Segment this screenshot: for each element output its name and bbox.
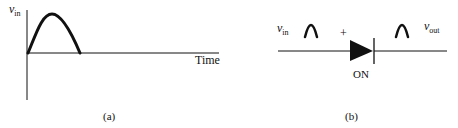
caption-a: (a): [103, 110, 115, 122]
diode-state-label: ON: [353, 68, 369, 80]
input-label-sub: in: [282, 28, 288, 37]
diode-triangle-icon: [350, 40, 373, 61]
output-voltage-label: vout: [424, 19, 440, 35]
polarity-plus: +: [340, 26, 347, 41]
diagram-canvas: [0, 0, 458, 128]
output-label-sub: out: [429, 26, 439, 35]
caption-b: (b): [345, 110, 358, 122]
x-axis-label: Time: [195, 53, 220, 68]
y-axis-label: vin: [9, 2, 21, 18]
y-axis-label-sub: in: [14, 9, 20, 18]
output-pulse-icon: [396, 25, 408, 37]
input-voltage-label: vin: [277, 21, 289, 37]
input-pulse-icon: [305, 25, 317, 37]
half-sine-waveform: [28, 14, 80, 53]
